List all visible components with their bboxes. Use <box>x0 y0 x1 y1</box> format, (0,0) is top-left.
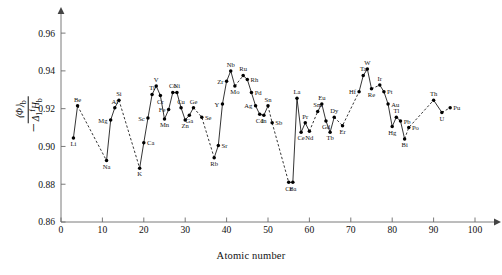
data-point-marker[interactable] <box>250 91 254 95</box>
y-axis-label-minus: − <box>25 123 42 132</box>
data-point-marker[interactable] <box>167 108 171 112</box>
data-line-dashed <box>78 106 107 161</box>
data-point-marker[interactable] <box>366 67 370 71</box>
y-axis-denominator-h-subscript: b <box>35 98 44 102</box>
y-axis-label-fraction: ⟨Φ⟩b Δ1fHb <box>16 96 45 123</box>
data-point-label: Pt <box>387 88 393 95</box>
data-point-marker[interactable] <box>171 91 175 95</box>
x-tick-label: 60 <box>305 224 315 235</box>
data-line-dashed <box>235 76 243 86</box>
data-line-solid <box>107 100 119 160</box>
y-axis-denominator-h: H <box>31 102 41 109</box>
data-point-label: Si <box>116 90 122 97</box>
data-point-label: Pr <box>302 113 309 120</box>
data-point-marker[interactable] <box>378 83 382 87</box>
data-point-marker[interactable] <box>142 141 146 145</box>
data-point-marker[interactable] <box>254 104 258 108</box>
data-point-label: Hf <box>349 88 357 95</box>
data-point-marker[interactable] <box>448 106 452 110</box>
data-point-label: Nb <box>227 61 236 68</box>
data-point-label: Al <box>112 98 119 105</box>
y-axis-label-rotated: − ⟨Φ⟩b Δ1fHb <box>16 88 45 140</box>
data-point-marker[interactable] <box>150 93 154 97</box>
data-point-marker[interactable] <box>320 102 324 106</box>
data-point-marker[interactable] <box>113 106 117 110</box>
data-point-marker[interactable] <box>304 121 308 125</box>
y-tick-label: 0.88 <box>38 179 55 190</box>
x-tick-label: 50 <box>263 224 273 235</box>
data-line-dashed <box>309 112 317 132</box>
data-point-marker[interactable] <box>76 104 80 108</box>
data-point-label: Bi <box>402 141 408 148</box>
data-point-marker[interactable] <box>270 121 274 125</box>
data-point-label: Pu <box>453 104 461 111</box>
data-point-marker[interactable] <box>361 74 365 78</box>
data-point-label: Zr <box>217 78 224 85</box>
data-point-label: K <box>137 170 142 177</box>
y-axis-denominator-superscript: f <box>28 109 37 112</box>
data-point-marker[interactable] <box>246 78 250 82</box>
data-point-marker[interactable] <box>146 116 150 120</box>
data-point-label: La <box>293 88 300 95</box>
data-point-marker[interactable] <box>295 97 299 101</box>
data-point-marker[interactable] <box>117 98 121 102</box>
data-point-label: Rb <box>210 160 218 167</box>
x-tick-label: 30 <box>180 224 190 235</box>
x-tick-label: 40 <box>222 224 232 235</box>
data-point-marker[interactable] <box>175 91 179 95</box>
data-point-label: Ce <box>297 134 304 141</box>
data-point-marker[interactable] <box>357 90 361 94</box>
data-point-label: V <box>154 76 159 83</box>
data-point-marker[interactable] <box>217 144 221 148</box>
data-line-solid <box>73 106 77 138</box>
data-line-dashed <box>119 100 140 168</box>
data-point-label: Sn <box>265 96 273 103</box>
y-axis-arrow <box>58 7 65 14</box>
data-point-label: Y <box>214 101 219 108</box>
figure-canvas: − ⟨Φ⟩b Δ1fHb 01020304050607080901000.860… <box>0 0 502 275</box>
x-tick-label: 0 <box>59 224 64 235</box>
data-point-marker[interactable] <box>225 80 229 84</box>
data-point-marker[interactable] <box>179 106 183 110</box>
data-point-label: Ru <box>239 65 247 72</box>
x-tick-label: 100 <box>468 224 483 235</box>
data-point-marker[interactable] <box>154 84 158 88</box>
data-point-marker[interactable] <box>229 69 233 73</box>
data-point-marker[interactable] <box>221 102 225 106</box>
data-point-label: Rh <box>251 76 259 83</box>
data-point-marker[interactable] <box>109 118 113 122</box>
data-point-marker[interactable] <box>407 126 411 130</box>
data-point-label: Se <box>205 114 212 121</box>
data-point-label: Ti <box>149 84 155 91</box>
data-point-label: Pd <box>255 89 263 96</box>
y-tick-label: 0.86 <box>38 216 55 227</box>
data-point-label: Ta <box>360 65 367 72</box>
y-axis-numerator-subscript: b <box>19 100 28 104</box>
data-point-label: Mg <box>98 117 108 124</box>
data-point-marker[interactable] <box>192 106 196 110</box>
data-point-label: Ag <box>244 102 253 109</box>
data-point-marker[interactable] <box>386 102 390 106</box>
data-point-marker[interactable] <box>241 74 245 78</box>
data-point-label: W <box>364 59 371 66</box>
data-point-label: Ni <box>174 82 181 89</box>
data-point-marker[interactable] <box>395 115 399 119</box>
data-line-solid <box>434 100 442 112</box>
data-point-marker[interactable] <box>200 115 204 119</box>
y-axis-label-numerator: ⟨Φ⟩b <box>16 96 28 123</box>
data-point-marker[interactable] <box>266 104 270 108</box>
data-point-label: Ge <box>190 98 198 105</box>
axes <box>58 7 501 225</box>
x-axis-ticks: 0102030405060708090100 <box>59 218 483 236</box>
y-tick-label: 0.96 <box>38 28 55 39</box>
data-point-label: Th <box>430 90 438 97</box>
data-point-marker[interactable] <box>316 110 320 114</box>
data-point-marker[interactable] <box>432 98 436 102</box>
data-point-label: Mn <box>160 121 170 128</box>
data-point-label: In <box>261 117 267 124</box>
data-point-marker[interactable] <box>399 119 403 123</box>
data-point-marker[interactable] <box>382 90 386 94</box>
data-point-label: Sr <box>222 142 229 149</box>
data-point-marker[interactable] <box>332 115 336 119</box>
data-point-label: Nd <box>305 134 314 141</box>
